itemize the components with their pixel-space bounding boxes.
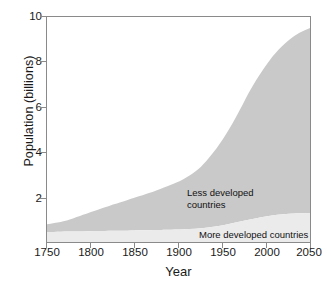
stacked-area-series [47, 17, 310, 242]
x-tick-label-2000: 2000 [247, 247, 287, 259]
plot-area: Less developed countries More developed … [46, 16, 311, 243]
x-tick-label-1850: 1850 [115, 247, 155, 259]
population-growth-chart: Population (billions) 10 8 6 4 2 Less de… [0, 0, 331, 291]
x-tick-label-1800: 1800 [71, 247, 111, 259]
area-less-developed [47, 28, 310, 232]
annotation-more-developed: More developed countries [199, 229, 308, 241]
x-axis-title: Year [46, 264, 311, 279]
y-tick-label-6: 6 [18, 102, 42, 114]
x-tick-label-2050: 2050 [289, 247, 329, 259]
y-tick-label-2: 2 [18, 193, 42, 205]
x-tick-label-1900: 1900 [159, 247, 199, 259]
x-tick-label-1750: 1750 [27, 247, 67, 259]
y-tick-label-10: 10 [18, 11, 42, 23]
x-tick-label-1950: 1950 [203, 247, 243, 259]
y-tick-label-8: 8 [18, 56, 42, 68]
y-tick-label-4: 4 [18, 147, 42, 159]
annotation-less-developed: Less developed countries [187, 187, 254, 211]
